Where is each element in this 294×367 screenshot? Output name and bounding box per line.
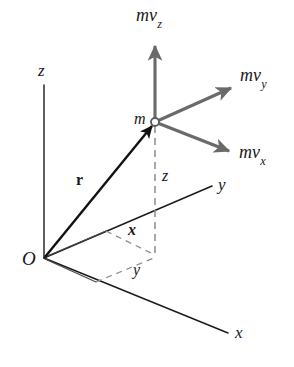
momentum-vectors-group xyxy=(155,46,231,151)
diagram-canvas xyxy=(0,0,294,367)
y-axis-label: y xyxy=(218,176,226,193)
particle-marker-group xyxy=(151,118,159,126)
x-axis-label: x xyxy=(235,324,243,341)
momentum-y-label: mvy xyxy=(240,66,266,88)
momentum-z-subscript: z xyxy=(157,17,162,31)
particle-marker xyxy=(151,118,159,126)
momentum-y-arrow xyxy=(155,88,231,122)
projection-lines-group xyxy=(45,126,156,282)
depth-dimension-label: x xyxy=(128,222,136,238)
position-vector-label: r xyxy=(76,172,83,188)
base-right-edge-line xyxy=(45,259,96,282)
momentum-y-subscript: y xyxy=(261,77,266,91)
momentum-y-prefix: mv xyxy=(240,65,261,85)
base-bottom-edge-line xyxy=(96,257,156,282)
momentum-x-arrow xyxy=(155,122,229,151)
particle-mass-label: m xyxy=(134,111,146,127)
momentum-x-prefix: mv xyxy=(239,142,260,162)
physics-diagram-figure: z y x O m r mvz mvy mvx z x y xyxy=(0,0,294,367)
momentum-x-subscript: x xyxy=(260,154,265,168)
origin-label: O xyxy=(22,249,36,268)
width-dimension-label: y xyxy=(133,262,140,278)
momentum-z-prefix: mv xyxy=(136,5,157,25)
z-axis-label: z xyxy=(38,62,45,79)
height-dimension-label: z xyxy=(162,168,168,184)
momentum-x-label: mvx xyxy=(239,143,265,165)
momentum-z-label: mvz xyxy=(136,6,162,28)
